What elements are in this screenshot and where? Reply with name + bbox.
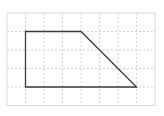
grid-diagram — [0, 0, 164, 116]
grid-lines — [7, 13, 155, 106]
